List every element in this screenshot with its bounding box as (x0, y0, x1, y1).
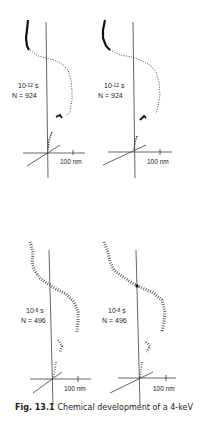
figure-graphics (0, 0, 211, 422)
panel-3-time-label: 10-8 s (26, 307, 44, 315)
panel-2-time-label: 10-12 s (104, 82, 124, 90)
panel-1-axes (23, 22, 85, 178)
panel-3-scale-label: 100 nm (64, 385, 86, 392)
figure-caption: Fig. 13.1Chemical development of a 4-keV (15, 403, 193, 412)
panel-4-n-label: N = 496 (102, 317, 127, 325)
caption-text: Chemical development of a 4-keV (58, 403, 193, 412)
panel-3-n-label: N = 496 (21, 317, 46, 325)
panel-1-n-label: N = 924 (12, 92, 37, 100)
panel-2-scale-label: 100 nm (147, 158, 169, 165)
panel-1-time-label: 10-12 s (18, 82, 38, 90)
caption-label: Fig. 13.1 (15, 403, 55, 412)
panel-4-time-label: 10-8 s (108, 307, 126, 315)
panel-4-scale-label: 100 nm (153, 385, 175, 392)
panel-2-axes (103, 22, 172, 178)
panel-2-n-label: N = 924 (98, 92, 123, 100)
panel-1-scale-label: 100 nm (60, 158, 82, 165)
panel-3-axes (30, 250, 91, 405)
